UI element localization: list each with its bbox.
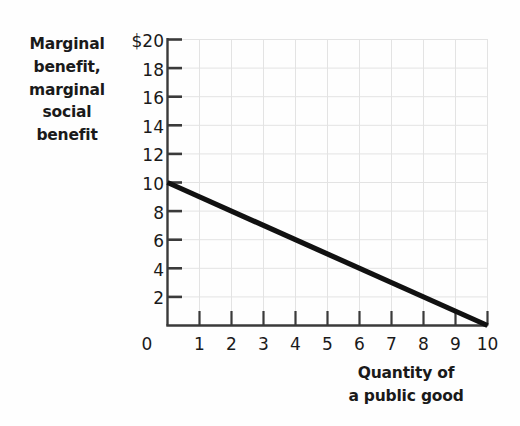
x-axis-title-line-2: a public good	[300, 385, 512, 408]
x-tick-label-10: 10	[468, 336, 508, 353]
x-axis-title-line-1: Quantity of	[300, 362, 512, 385]
x-tick-label-0: 0	[127, 336, 167, 353]
x-axis-title: Quantity of a public good	[300, 362, 512, 408]
chart-figure: Marginal benefit, marginal social benefi…	[0, 0, 520, 426]
